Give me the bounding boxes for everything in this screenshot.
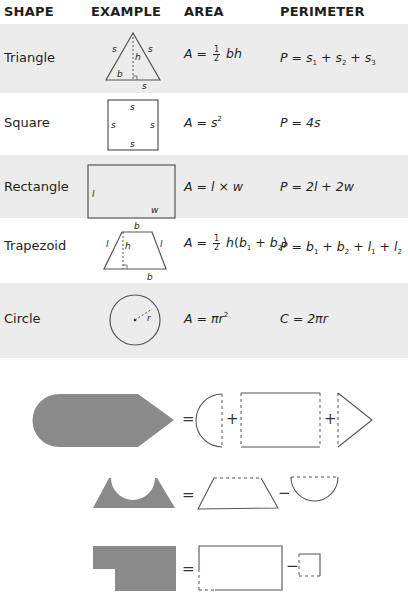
row-rectangle: Rectangle l w A = l × w P = 2l + 2w <box>0 155 408 218</box>
label-s-top: s <box>130 102 135 112</box>
header-shape: SHAPE <box>4 4 54 19</box>
equals-sign: = <box>182 486 195 504</box>
area-formula: A = 12 h(b1 + b2) <box>184 235 287 252</box>
area-formula: A = l × w <box>184 179 243 194</box>
equals-sign: = <box>182 410 195 428</box>
minus-sign: − <box>286 557 299 575</box>
label-s3: s <box>142 81 147 91</box>
header-perimeter: PERIMETER <box>280 4 365 19</box>
row-triangle: Triangle s s h b s A = 12 bh P = s1 + s2… <box>0 24 408 93</box>
perimeter-formula: P = s1 + s2 + s3 <box>280 50 376 67</box>
area-formula: A = s2 <box>184 115 222 130</box>
label-w: w <box>151 205 159 215</box>
header-area: AREA <box>184 4 224 19</box>
label-s1: s <box>112 44 117 54</box>
equals-sign: = <box>182 560 195 578</box>
minus-sign: − <box>278 484 291 502</box>
label-l-right: l <box>160 239 163 249</box>
label-b: b <box>117 69 123 79</box>
perimeter-formula: P = b1 + b2 + l1 + l2 <box>280 239 402 256</box>
perimeter-formula: C = 2πr <box>280 311 328 326</box>
area-formula: A = 12 bh <box>184 46 242 63</box>
area-formula: A = πr2 <box>184 311 228 326</box>
label-b-top: b <box>134 221 140 231</box>
row-circle: Circle r A = πr2 C = 2πr <box>0 283 408 358</box>
label-l: l <box>92 189 95 199</box>
label-s-bottom: s <box>130 139 135 149</box>
label-s-left: s <box>111 120 116 130</box>
composite-trapezoid-minus-semicircle <box>0 476 408 516</box>
label-l-left: l <box>106 239 109 249</box>
label-s-right: s <box>150 120 155 130</box>
perimeter-formula: P = 2l + 2w <box>280 179 354 194</box>
label-s2: s <box>148 44 153 54</box>
perimeter-formula: P = 4s <box>280 115 320 130</box>
label-h: h <box>125 241 131 251</box>
plus-sign: + <box>226 410 239 428</box>
label-h: h <box>135 52 141 62</box>
row-square: Square s s s s A = s2 P = 4s <box>0 93 408 155</box>
row-trapezoid: Trapezoid b l h l b A = 12 h(b1 + b2) P … <box>0 218 408 283</box>
label-b-bottom: b <box>147 272 153 282</box>
composite-pencil-shape <box>0 390 408 460</box>
label-r: r <box>147 313 152 323</box>
plus-sign: + <box>324 410 337 428</box>
composite-rectangle-minus-square <box>0 544 408 594</box>
header-example: EXAMPLE <box>91 4 161 19</box>
